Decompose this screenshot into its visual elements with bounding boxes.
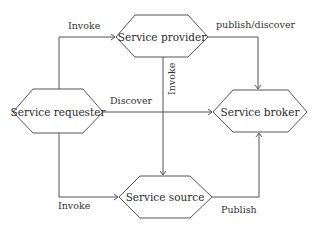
edge-provider-to-broker: [208, 37, 261, 89]
edge-label-invoke-provider: Invoke: [68, 20, 101, 31]
edge-label-publish: Publish: [221, 204, 257, 215]
edge-requester-to-broker: [103, 109, 212, 115]
edge-label-invoke-vertical: Invoke: [166, 62, 177, 95]
edge-label-publish-discover: publish/discover: [216, 19, 296, 30]
edge-label-invoke-source: Invoke: [58, 200, 91, 211]
edge-label-discover: Discover: [110, 95, 153, 106]
edge-requester-to-source: [59, 133, 118, 200]
node-service-provider[interactable]: Service provider: [116, 15, 208, 57]
node-service-source[interactable]: Service source: [119, 176, 212, 218]
edge-source-to-broker: [212, 133, 262, 197]
node-label: Service requester: [11, 106, 107, 118]
service-architecture-diagram: Service provider Service requester Servi…: [0, 0, 318, 228]
node-label: Service broker: [221, 106, 301, 118]
edge-requester-to-provider: [59, 34, 115, 89]
node-label: Service provider: [118, 31, 207, 43]
node-label: Service source: [126, 191, 205, 203]
node-service-broker[interactable]: Service broker: [213, 90, 307, 132]
node-service-requester[interactable]: Service requester: [11, 89, 107, 133]
